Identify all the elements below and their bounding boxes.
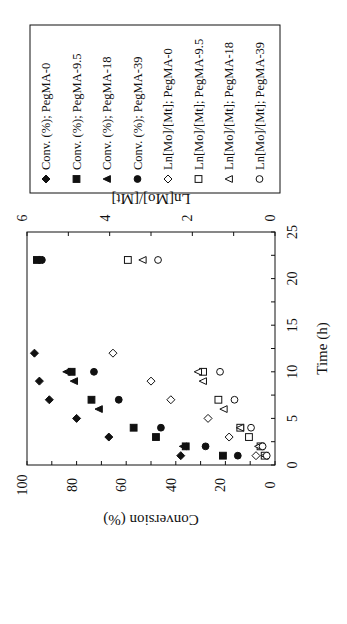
conversion-tick-label: 80 (65, 478, 80, 492)
legend-item-label: Ln[Mo]/[Mt]; PegMA-9.5 (192, 39, 206, 170)
circle-open-marker (155, 257, 162, 264)
square-open-marker (124, 257, 131, 264)
ln-tick-label: 4 (98, 215, 113, 222)
circle-filled-marker (38, 257, 45, 264)
legend: Conv. (%); PegMA-0Conv. (%); PegMA-9.5Co… (30, 25, 280, 193)
triangle-filled-marker (70, 378, 77, 385)
square-filled-marker (130, 424, 137, 431)
diamond-filled-marker (45, 396, 53, 404)
ln-tick-label: 2 (180, 215, 195, 222)
diamond-filled-marker (177, 452, 185, 460)
legend-item-label: Conv. (%); PegMA-39 (131, 57, 145, 170)
diamond-filled-marker (30, 349, 38, 357)
triangle-open-marker (220, 406, 227, 413)
square-open-marker (215, 396, 222, 403)
diamond-open-marker (204, 414, 212, 422)
time-tick-label: 25 (285, 225, 300, 239)
legend-item-label: Conv. (%); PegMA-0 (39, 63, 53, 170)
circle-filled-marker (234, 452, 241, 459)
time-tick-label: 5 (285, 415, 300, 422)
diamond-open-marker (147, 377, 155, 385)
rotated-scatter-chart: Conv. (%); PegMA-0Conv. (%); PegMA-9.5Co… (0, 0, 347, 624)
data-points (30, 256, 270, 460)
circle-filled-marker (115, 396, 122, 403)
time-tick-label: 20 (285, 272, 300, 286)
diamond-open-marker (252, 452, 260, 460)
triangle-filled-marker (63, 368, 70, 375)
series-5 (124, 257, 268, 460)
circle-open-marker (217, 368, 224, 375)
circle-open-legend-icon (256, 176, 263, 183)
time-tick-label: 0 (285, 462, 300, 469)
diamond-filled-marker (35, 377, 43, 385)
conversion-tick-label: 60 (114, 478, 129, 492)
square-filled-marker (220, 452, 227, 459)
square-filled-marker (88, 396, 95, 403)
triangle-open-marker (199, 378, 206, 385)
ln-tick-label: 6 (15, 215, 30, 222)
conversion-tick-label: 0 (263, 482, 278, 489)
triangle-filled-marker (95, 406, 102, 413)
time-tick-label: 15 (285, 318, 300, 332)
square-open-marker (246, 434, 253, 441)
time-tick-label: 10 (285, 365, 300, 379)
circle-open-marker (231, 396, 238, 403)
series-7 (155, 257, 271, 460)
series-3 (38, 257, 241, 460)
series-1 (34, 257, 227, 460)
circle-open-marker (263, 452, 270, 459)
diamond-open-marker (167, 396, 175, 404)
diamond-filled-marker (105, 433, 113, 441)
conversion-tick-label: 100 (15, 475, 30, 496)
circle-filled-marker (91, 368, 98, 375)
circle-open-marker (259, 443, 266, 450)
conversion-tick-label: 40 (164, 478, 179, 492)
legend-item-label: Ln[Mo]/[Mt]; PegMA-18 (222, 42, 236, 170)
legend-item-label: Conv. (%); PegMA-18 (100, 57, 114, 170)
triangle-open-marker (194, 368, 201, 375)
square-open-legend-icon (195, 176, 202, 183)
conversion-axis-title: Conversion (%) (103, 511, 198, 528)
circle-filled-marker (158, 424, 165, 431)
legend-item-label: Ln[Mo]/[Mt]; PegMA-39 (253, 42, 267, 170)
diamond-open-marker (225, 433, 233, 441)
legend-box (30, 25, 280, 193)
ln-tick-label: 0 (263, 215, 278, 222)
diamond-filled-marker (73, 414, 81, 422)
diamond-open-marker (109, 349, 117, 357)
axis-labels: 0510152025Time (h)020406080100Conversion… (15, 191, 331, 528)
time-axis-title: Time (h) (314, 322, 331, 374)
legend-item-label: Conv. (%); PegMA-9.5 (70, 53, 84, 170)
circle-open-marker (248, 424, 255, 431)
triangle-open-marker (139, 257, 146, 264)
circle-filled-legend-icon (134, 176, 141, 183)
circle-filled-marker (202, 443, 209, 450)
ln-axis-title: Ln[Mo]/[Mt] (111, 191, 190, 207)
conversion-tick-label: 20 (213, 478, 228, 492)
legend-item-label: Ln[Mo]/[Mt]; PegMA-0 (161, 48, 175, 170)
square-filled-marker (153, 434, 160, 441)
square-filled-legend-icon (73, 176, 80, 183)
